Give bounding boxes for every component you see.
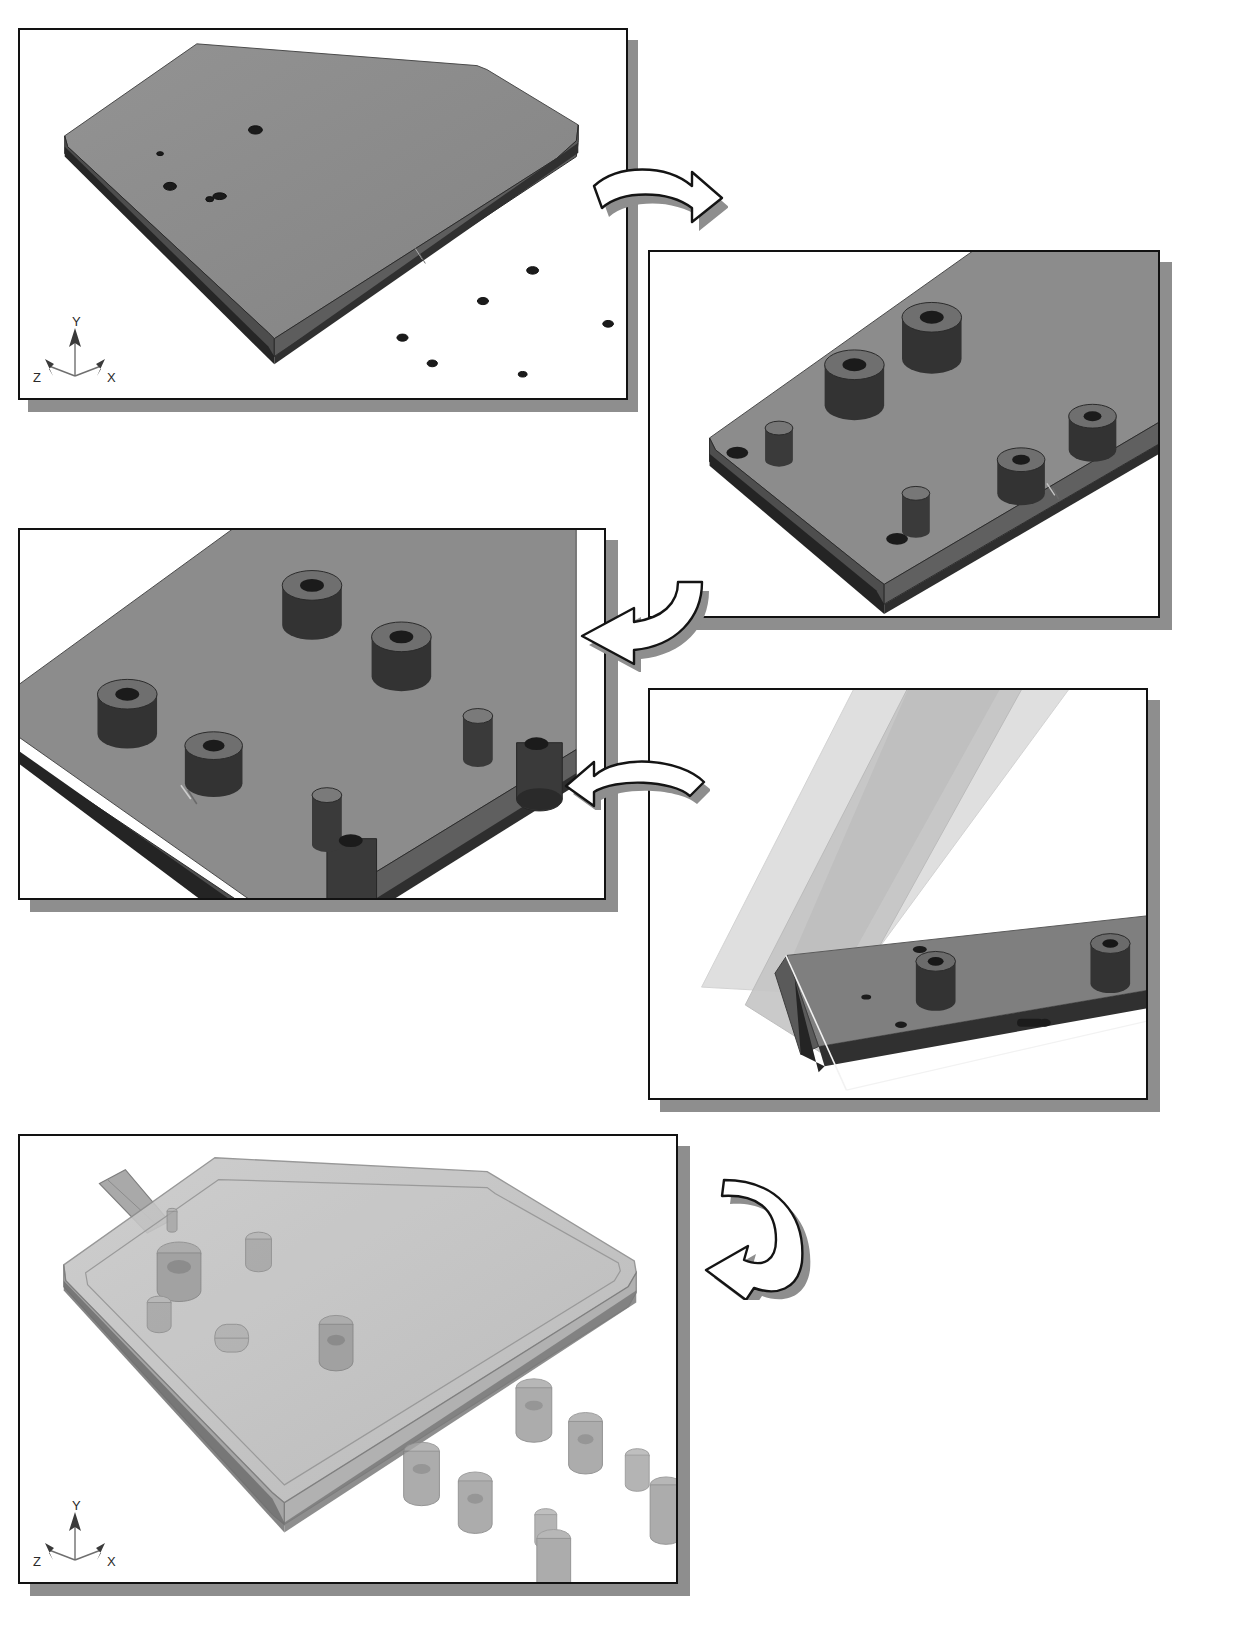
- boss: [902, 302, 962, 373]
- viewport-step-2: [650, 252, 1158, 616]
- ghost-standoff: [404, 1442, 440, 1505]
- hole: [525, 737, 549, 750]
- ghost-pin: [167, 1208, 177, 1232]
- panel-step-5[interactable]: Y Z X Step 5 — Completed part shown in t…: [18, 1134, 678, 1584]
- hole: [913, 946, 927, 953]
- hole: [726, 447, 748, 459]
- ghost-pin: [625, 1449, 649, 1492]
- boss: [97, 679, 157, 748]
- ghost-boss: [157, 1242, 201, 1301]
- boss: [185, 732, 243, 797]
- ghost-slot: [215, 1324, 249, 1352]
- boss: [825, 350, 885, 420]
- viewport-step-1: [20, 30, 626, 398]
- boss: [282, 571, 342, 640]
- ghost-pin: [147, 1296, 171, 1333]
- ghost-standoff: [516, 1379, 552, 1442]
- standoff-leg: [517, 743, 563, 811]
- hole: [861, 994, 871, 999]
- diagram-page: Mounting Plate — Feature Modeling Sequen…: [0, 0, 1236, 1634]
- boss: [372, 622, 432, 691]
- ghost-standoff: [569, 1413, 603, 1474]
- pin: [765, 421, 793, 467]
- panel-step-3[interactable]: Step 3 — Standoff legs extruded downward…: [18, 528, 606, 900]
- ghost-standoff: [458, 1472, 492, 1533]
- ghost-standoff-leg: [650, 1477, 676, 1544]
- pin: [902, 486, 930, 537]
- panel-step-2[interactable]: Step 2 — Cylindrical bosses extruded fro…: [648, 250, 1160, 618]
- boss: [1069, 404, 1117, 461]
- boss: [916, 951, 956, 1010]
- slot: [1017, 1019, 1051, 1027]
- viewport-step-3: [20, 530, 604, 898]
- hole: [339, 834, 363, 847]
- arrow-step5-to-step4: [672, 1150, 832, 1300]
- ghost-pin: [246, 1232, 272, 1272]
- panel-step-1[interactable]: Y Z X Step 1 — Extruded base plate with …: [18, 28, 628, 400]
- panel-step-4[interactable]: Step 4 — Reference / sketch planes displ…: [648, 688, 1148, 1100]
- hole: [895, 1022, 907, 1028]
- pin: [312, 788, 342, 852]
- ghost-boss: [319, 1315, 353, 1371]
- viewport-step-4: [650, 690, 1146, 1098]
- boss: [997, 448, 1045, 505]
- ghost-standoff-leg: [537, 1529, 571, 1582]
- viewport-step-5: [20, 1136, 676, 1582]
- boss: [1090, 934, 1130, 993]
- pin: [463, 709, 493, 767]
- hole: [886, 533, 908, 545]
